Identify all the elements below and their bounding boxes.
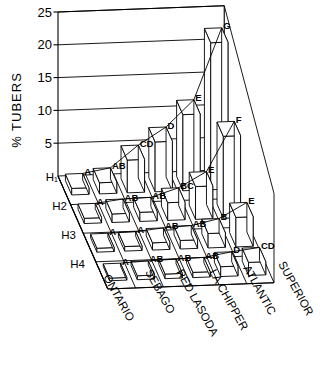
depth-label-h4: H4 (70, 258, 85, 270)
bar-sig-label: A (97, 196, 104, 207)
bar-sig-label: CD (140, 138, 154, 149)
bar-sig-label: AB (205, 250, 219, 261)
bar-sig-label: F (236, 114, 242, 125)
chart-canvas: 25 20 15 10 5 % TUBERS H₁ H2 H3 H4 ONTAR… (0, 0, 333, 365)
bar-sig-label: A (109, 226, 116, 237)
bar-sig-label: A (137, 224, 144, 235)
bar-sig-label: BC (180, 180, 194, 191)
bar-sig-label: AB (165, 220, 179, 231)
bar-sig-label: AB (125, 192, 139, 203)
bar-sig-label: A (122, 256, 129, 267)
bar-sig-label: E (195, 92, 201, 103)
y-tick-15: 15 (38, 70, 52, 85)
depth-label-h2: H2 (52, 200, 67, 212)
y-tick-10: 10 (38, 103, 52, 118)
y-tick-25: 25 (38, 5, 52, 20)
chart-bars (65, 28, 265, 281)
bar-sig-label: G (223, 20, 230, 31)
chart-y-tick-labels: 25 20 15 10 5 (38, 5, 52, 151)
y-axis-title-group: % TUBERS (9, 72, 24, 148)
depth-label-h3: H3 (61, 229, 76, 241)
bar-sig-label: A (84, 166, 91, 177)
chart-figure: 25 20 15 10 5 % TUBERS H₁ H2 H3 H4 ONTAR… (0, 0, 333, 365)
bar-sig-label: D (168, 120, 175, 131)
y-axis-title: % TUBERS (9, 72, 24, 148)
bar-sig-label: AB (178, 252, 192, 263)
bar-sig-label: D (233, 244, 240, 255)
category-label-superior: SUPERIOR (276, 259, 316, 317)
bar-sig-label: B (221, 211, 228, 222)
bar-sig-label: E (208, 164, 214, 175)
bar-sig-label: AB (150, 253, 164, 264)
depth-label-h1: H₁ (46, 171, 58, 183)
bar-sig-label: AB (193, 218, 207, 229)
bar-sig-label: AB (112, 160, 126, 171)
bar-sig-label: E (248, 195, 254, 206)
y-tick-5: 5 (45, 136, 52, 151)
bar-sig-label: AB (152, 190, 166, 201)
y-tick-20: 20 (38, 37, 52, 52)
bar-sig-label: CD (261, 240, 275, 251)
